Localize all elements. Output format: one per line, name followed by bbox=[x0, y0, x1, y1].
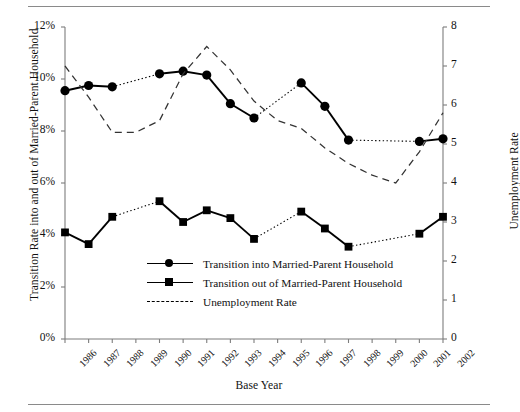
legend-item-transition-out: Transition out of Married-Parent Househo… bbox=[147, 273, 402, 292]
series-segment-dotted bbox=[112, 201, 159, 217]
series-segment-dotted bbox=[349, 140, 420, 141]
y-axis-left-tick-label: 2% bbox=[19, 279, 55, 291]
y-axis-right-tick-label: 5 bbox=[451, 136, 475, 148]
data-point-square bbox=[108, 213, 116, 221]
y-axis-left-tick-label: 8% bbox=[19, 123, 55, 135]
data-point-circle bbox=[415, 137, 424, 146]
series-segment-solid bbox=[325, 106, 349, 140]
data-point-square bbox=[345, 243, 353, 251]
y-axis-right-tick-label: 4 bbox=[451, 175, 475, 187]
series-segment-solid bbox=[207, 75, 231, 104]
data-point-circle bbox=[226, 99, 235, 108]
legend-label-unemployment-rate: Unemployment Rate bbox=[203, 296, 297, 308]
data-point-square bbox=[203, 206, 211, 214]
data-point-circle bbox=[60, 86, 69, 95]
y-axis-right-tick-label: 2 bbox=[451, 253, 475, 265]
data-point-square bbox=[415, 230, 423, 238]
y-axis-left-tick-label: 4% bbox=[19, 227, 55, 239]
data-point-circle bbox=[249, 113, 258, 122]
data-point-circle bbox=[84, 81, 93, 90]
data-point-square bbox=[156, 197, 164, 205]
data-point-circle bbox=[108, 82, 117, 91]
legend-label-transition-out: Transition out of Married-Parent Househo… bbox=[203, 277, 402, 289]
legend-item-transition-into: Transition into Married-Parent Household bbox=[147, 254, 402, 273]
series-segment-solid bbox=[301, 83, 325, 106]
legend-key-line-square-icon bbox=[147, 276, 193, 290]
legend-item-unemployment-rate: Unemployment Rate bbox=[147, 292, 402, 311]
data-point-square bbox=[226, 214, 234, 222]
chart-legend: Transition into Married-Parent Household… bbox=[147, 254, 402, 311]
y-axis-right-tick-label: 6 bbox=[451, 97, 475, 109]
legend-key-dashed-line-icon bbox=[147, 295, 193, 309]
series-segment-dotted bbox=[112, 74, 159, 87]
y-axis-left-tick-label: 6% bbox=[19, 175, 55, 187]
series-segment-dotted bbox=[254, 83, 301, 118]
y-axis-left-tick-label: 0% bbox=[19, 331, 55, 343]
data-point-circle bbox=[155, 69, 164, 78]
data-point-square bbox=[250, 235, 258, 243]
data-point-square bbox=[321, 225, 329, 233]
data-point-square bbox=[179, 218, 187, 226]
data-point-square bbox=[61, 229, 69, 237]
data-point-circle bbox=[344, 136, 353, 145]
series-segment-solid bbox=[89, 217, 113, 244]
y-axis-right-tick-label: 0 bbox=[451, 331, 475, 343]
y-axis-right-tick-label: 7 bbox=[451, 58, 475, 70]
y-axis-left-tick-label: 10% bbox=[19, 71, 55, 83]
data-point-square bbox=[85, 240, 93, 248]
y-axis-left-tick-label: 12% bbox=[19, 19, 55, 31]
data-point-circle bbox=[438, 134, 447, 143]
y-axis-right-tick-label: 1 bbox=[451, 292, 475, 304]
series-segment-dotted bbox=[349, 234, 420, 247]
y-axis-right-tick-label: 3 bbox=[451, 214, 475, 226]
legend-key-line-circle-icon bbox=[147, 257, 193, 271]
series-group bbox=[60, 47, 447, 251]
data-point-square bbox=[297, 208, 305, 216]
data-point-square bbox=[439, 213, 447, 221]
series-segment-dotted bbox=[254, 212, 301, 239]
legend-label-transition-into: Transition into Married-Parent Household bbox=[203, 258, 393, 270]
data-point-circle bbox=[320, 102, 329, 111]
y-axis-right-tick-label: 8 bbox=[451, 19, 475, 31]
data-point-circle bbox=[297, 78, 306, 87]
data-point-circle bbox=[202, 71, 211, 80]
